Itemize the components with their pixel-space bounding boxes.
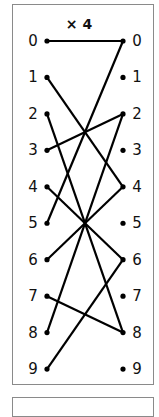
left-label-8: 8 [28,324,38,342]
right-dot-5 [120,221,125,226]
left-label-9: 9 [28,360,38,378]
left-column: 0123456789 [28,32,49,378]
left-dot-5 [44,221,49,226]
right-dot-2 [120,111,125,116]
right-dot-6 [120,257,125,262]
left-dot-9 [44,366,49,371]
right-label-3: 3 [132,141,142,159]
right-dot-8 [120,330,125,335]
right-label-5: 5 [132,214,142,232]
diagram-title: × 4 [66,16,93,32]
right-dot-4 [120,184,125,189]
right-label-2: 2 [132,105,142,123]
left-label-5: 5 [28,214,38,232]
right-label-7: 7 [132,287,142,305]
mapping-lines [47,41,123,369]
left-dot-6 [44,257,49,262]
left-dot-7 [44,294,49,299]
right-label-8: 8 [132,324,142,342]
left-dot-1 [44,75,49,80]
left-dot-3 [44,148,49,153]
left-dot-2 [44,111,49,116]
right-dot-0 [120,38,125,43]
mapping-line-9-to-6 [47,260,123,369]
left-dot-8 [44,330,49,335]
right-label-0: 0 [132,32,142,50]
left-label-3: 3 [28,141,38,159]
mapping-line-5-to-0 [47,41,123,223]
right-dot-9 [120,366,125,371]
left-label-0: 0 [28,32,38,50]
right-column: 0123456789 [120,32,141,378]
left-label-1: 1 [28,68,38,86]
right-label-6: 6 [132,251,142,269]
left-dot-4 [44,184,49,189]
right-label-9: 9 [132,360,142,378]
left-dot-0 [44,38,49,43]
left-label-4: 4 [28,178,38,196]
right-label-4: 4 [132,178,142,196]
left-label-6: 6 [28,251,38,269]
right-dot-7 [120,294,125,299]
left-label-7: 7 [28,287,38,305]
left-label-2: 2 [28,105,38,123]
right-label-1: 1 [132,68,142,86]
right-dot-1 [120,75,125,80]
right-dot-3 [120,148,125,153]
